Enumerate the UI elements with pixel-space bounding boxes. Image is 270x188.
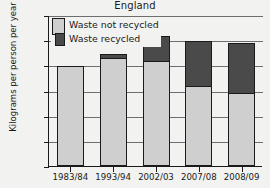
bar-segment-not-recycled bbox=[100, 57, 127, 166]
bar-segment-recycled bbox=[100, 54, 127, 59]
legend-swatch-icon bbox=[52, 18, 65, 46]
y-axis-tick bbox=[44, 167, 49, 168]
dark-gray-swatch bbox=[55, 33, 65, 46]
legend: Waste not recycled Waste recycled bbox=[51, 17, 161, 47]
y-axis-tick bbox=[44, 66, 49, 67]
bar-segment-recycled bbox=[228, 43, 255, 94]
bar-segment-not-recycled bbox=[57, 66, 84, 166]
bar-2008-09 bbox=[228, 43, 255, 166]
y-axis-tick bbox=[44, 92, 49, 93]
waste-bar-chart: England Kilograms per person per year 01… bbox=[0, 0, 270, 188]
bar-segment-not-recycled bbox=[228, 93, 255, 166]
y-axis-tick bbox=[44, 117, 49, 118]
chart-title: England bbox=[0, 0, 270, 11]
legend-item-not-recycled: Waste not recycled bbox=[69, 18, 159, 32]
bar-1983-84 bbox=[57, 66, 84, 166]
bar-segment-recycled bbox=[185, 41, 212, 87]
y-axis-tick bbox=[44, 142, 49, 143]
bar-1993-94 bbox=[100, 54, 127, 166]
bar-2002-03 bbox=[143, 36, 170, 166]
legend-item-recycled: Waste recycled bbox=[69, 32, 159, 46]
x-axis-tick-label: 2008/09 bbox=[214, 172, 270, 182]
bar-segment-not-recycled bbox=[185, 86, 212, 166]
y-axis-title: Kilograms per person per year bbox=[8, 0, 18, 137]
bar-2007-08 bbox=[185, 41, 212, 166]
y-axis-tick bbox=[44, 41, 49, 42]
y-axis-tick bbox=[44, 16, 49, 17]
bar-segment-not-recycled bbox=[143, 60, 170, 166]
